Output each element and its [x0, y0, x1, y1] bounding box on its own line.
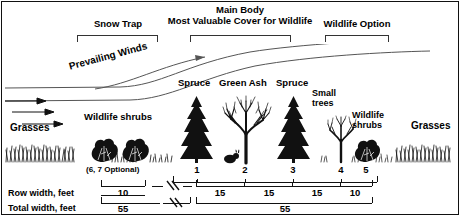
measurement-rules — [0, 0, 462, 218]
row-width-value-2: 15 — [258, 187, 280, 198]
row-width-axis-label: Row width, feet — [8, 188, 74, 198]
figure-container: Main Body Most Valuable Cover for Wildli… — [0, 0, 462, 218]
total-width-axis-label: Total width, feet — [8, 203, 76, 213]
row-width-value-4: 10 — [344, 187, 366, 198]
row-width-value-left: 10 — [112, 187, 134, 198]
total-width-value-right: 55 — [274, 203, 296, 214]
row-width-value-1: 15 — [209, 187, 231, 198]
total-width-value-left: 55 — [112, 203, 134, 214]
row-width-value-3: 15 — [306, 187, 328, 198]
